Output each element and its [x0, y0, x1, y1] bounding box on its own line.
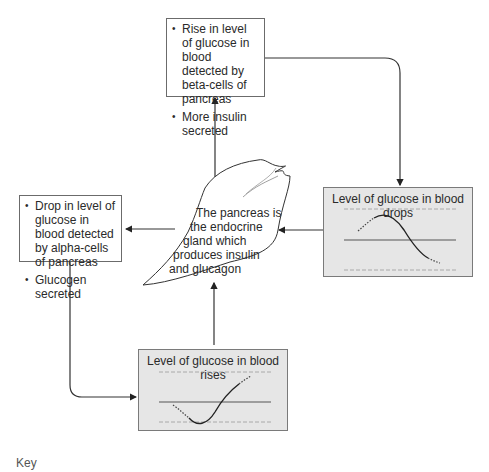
glucose-rises-graph: Level of glucose in blood rises [138, 349, 288, 431]
key-label: Key [16, 456, 37, 470]
pancreas-line-3: gland which [178, 234, 281, 248]
glucose-rises-curve [139, 350, 289, 432]
alpha-cells-box: Drop in level of glucose in blood detect… [19, 195, 122, 262]
glucose-drops-graph: Level of glucose in blood drops [323, 187, 473, 277]
glucose-drops-curve [324, 188, 474, 278]
alpha-cells-detection-text: Drop in level of glucose in blood detect… [24, 199, 117, 269]
insulin-secreted-text: More insulin secreted [171, 110, 260, 138]
pancreas-line-1: The pancreas is [178, 206, 281, 220]
beta-cells-box: Rise in level of glucose in blood detect… [166, 18, 265, 97]
pancreas-line-5: and glucagon [169, 262, 281, 276]
pancreas-line-4: produces insulin [173, 248, 281, 262]
glucagon-secreted-text: Glucogen secreted [24, 273, 117, 301]
pancreas-line-2: the endocrine [178, 220, 281, 234]
beta-cells-detection-text: Rise in level of glucose in blood detect… [171, 22, 260, 106]
pancreas-label: The pancreas is the endocrine gland whic… [178, 206, 281, 276]
